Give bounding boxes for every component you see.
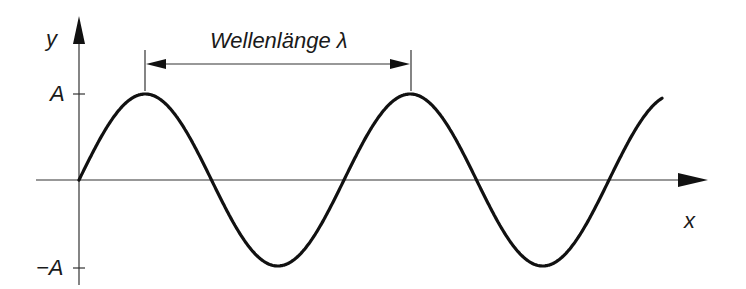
wave-diagram: y x A −A Wellenlänge λ	[0, 0, 746, 289]
x-axis-label: x	[684, 208, 695, 234]
x-axis-arrow-icon	[678, 173, 708, 187]
negative-amplitude-label: −A	[36, 255, 64, 281]
wavelength-dimension	[145, 50, 411, 91]
y-axis-arrow-icon	[73, 16, 85, 44]
dimension-arrow-right-icon	[390, 59, 410, 69]
y-axis-label: y	[46, 26, 57, 52]
amplitude-label: A	[50, 81, 65, 107]
dimension-arrow-left-icon	[146, 59, 166, 69]
diagram-canvas	[0, 0, 746, 289]
wavelength-label: Wellenlänge λ	[210, 28, 348, 54]
y-axis	[73, 16, 85, 285]
